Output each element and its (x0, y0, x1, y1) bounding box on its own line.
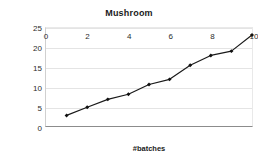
data-point (106, 97, 110, 101)
chart-title: Mushroom (0, 8, 258, 18)
data-point (126, 92, 130, 96)
y-axis-tick-label: 15 (4, 64, 42, 73)
series-line-mushroom (67, 35, 252, 115)
y-axis-tick-label: 20 (4, 44, 42, 53)
x-axis-title: #batches (45, 144, 253, 153)
y-axis-tick-label: 0 (4, 124, 42, 133)
series-plot (46, 28, 252, 126)
chart-container: Mushroom #patterns (in millions) 0510152… (0, 0, 258, 158)
y-axis-tick-label: 10 (4, 84, 42, 93)
data-point (65, 113, 69, 117)
y-axis-tick-label: 25 (4, 24, 42, 33)
y-axis-tick-label: 5 (4, 104, 42, 113)
plot-area: 0510152025 0246810 (45, 27, 253, 127)
data-point (209, 53, 213, 57)
data-point (147, 82, 151, 86)
data-point (85, 105, 89, 109)
